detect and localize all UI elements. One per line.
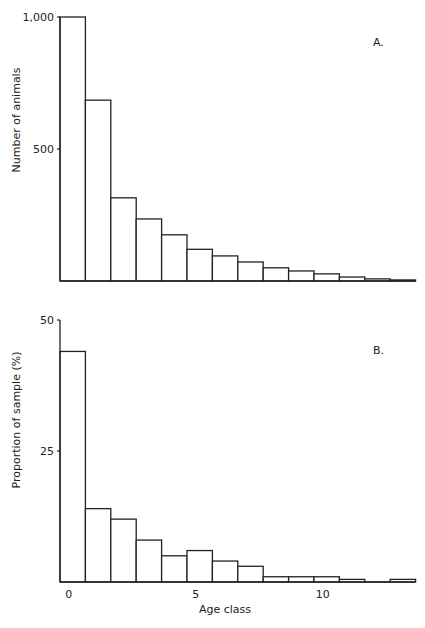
bar-age-class-10 (314, 274, 339, 281)
y-axis-label: Number of animals (10, 67, 23, 172)
panel-label: A. (373, 36, 384, 49)
bar-age-class-7 (238, 262, 263, 281)
bar-age-class-3 (136, 540, 161, 582)
bar-age-class-4 (162, 235, 187, 281)
bar-age-class-5 (187, 249, 212, 281)
panel-label: B. (373, 344, 384, 357)
y-tick-label: 25 (40, 445, 54, 458)
bar-age-class-0 (60, 351, 85, 582)
bar-age-class-7 (238, 566, 263, 582)
x-tick-label: 0 (65, 588, 72, 601)
x-tick-label: 5 (192, 588, 199, 601)
bar-age-class-9 (289, 271, 314, 281)
bar-age-class-2 (111, 198, 136, 281)
bar-age-class-8 (263, 268, 288, 281)
bar-age-class-3 (136, 219, 161, 281)
bar-age-class-5 (187, 551, 212, 582)
panel-b-proportion-of-sample: 5025Proportion of sample (%)B.0510Age cl… (10, 314, 416, 616)
bar-age-class-4 (162, 556, 187, 582)
bar-age-class-10 (314, 577, 339, 582)
x-tick-label: 10 (316, 588, 330, 601)
panel-a-number-of-animals: 1,000500Number of animalsA. (10, 11, 416, 281)
bar-age-class-2 (111, 519, 136, 582)
y-tick-label: 500 (33, 143, 54, 156)
bar-age-class-1 (85, 100, 110, 281)
bar-age-class-6 (212, 561, 237, 582)
bar-age-class-8 (263, 577, 288, 582)
bar-age-class-9 (289, 577, 314, 582)
y-tick-label: 1,000 (23, 11, 55, 24)
y-tick-label: 50 (40, 314, 54, 327)
bar-age-class-0 (60, 17, 85, 281)
bar-age-class-1 (85, 509, 110, 582)
y-axis-label: Proportion of sample (%) (10, 352, 23, 489)
chart-figure: 1,000500Number of animalsA. 5025Proporti… (0, 0, 425, 628)
x-axis-label: Age class (199, 603, 251, 616)
bar-age-class-6 (212, 256, 237, 281)
